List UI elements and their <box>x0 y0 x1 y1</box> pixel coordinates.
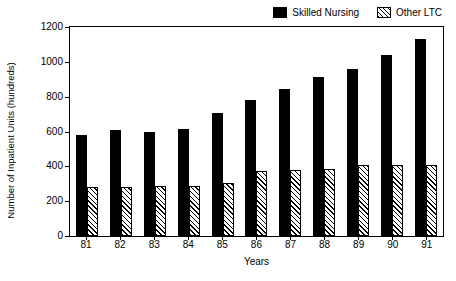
bar-chart: Skilled Nursing Other LTC Number of Inpa… <box>0 0 456 281</box>
bar-group <box>415 27 437 236</box>
bar-skilled-nursing-86 <box>245 100 256 236</box>
y-axis-tick-label: 200 <box>46 196 63 206</box>
chart-legend: Skilled Nursing Other LTC <box>0 4 456 20</box>
x-axis-title: Years <box>69 256 444 267</box>
bar-skilled-nursing-91 <box>415 39 426 236</box>
x-axis-tick-label: 89 <box>353 239 364 253</box>
y-axis-title-text: Number of Inpatient Units (hundreds) <box>5 62 16 218</box>
bar-skilled-nursing-89 <box>347 69 358 236</box>
legend-swatch-hatch-icon <box>377 7 391 18</box>
bar-group <box>144 27 166 236</box>
bar-group <box>245 27 267 236</box>
y-axis-tick-label: 800 <box>46 92 63 102</box>
bar-group <box>313 27 335 236</box>
bar-other-ltc-84 <box>189 186 200 237</box>
bar-other-ltc-88 <box>324 169 335 236</box>
bar-other-ltc-81 <box>87 187 98 236</box>
bar-group <box>178 27 200 236</box>
bar-group <box>110 27 132 236</box>
bar-group <box>347 27 369 236</box>
x-axis-tick-label: 83 <box>149 239 160 253</box>
x-axis-tick-label: 84 <box>183 239 194 253</box>
y-axis-title: Number of Inpatient Units (hundreds) <box>2 0 18 281</box>
bar-skilled-nursing-81 <box>76 135 87 236</box>
bar-group <box>76 27 98 236</box>
legend-swatch-solid-icon <box>273 7 287 18</box>
y-axis-tick-label: 0 <box>57 231 63 241</box>
legend-item-other-ltc: Other LTC <box>377 7 442 18</box>
bar-group <box>279 27 301 236</box>
y-axis-tick-label: 1200 <box>41 22 63 32</box>
legend-label-skilled-nursing: Skilled Nursing <box>292 7 359 18</box>
plot-area: 020040060080010001200 <box>69 26 444 237</box>
bar-group <box>381 27 403 236</box>
bar-other-ltc-91 <box>426 165 437 236</box>
x-axis-tick-label: 82 <box>115 239 126 253</box>
legend-label-other-ltc: Other LTC <box>396 7 442 18</box>
x-axis-tick-label: 86 <box>251 239 262 253</box>
bar-skilled-nursing-90 <box>381 55 392 236</box>
bar-other-ltc-83 <box>155 186 166 236</box>
bar-group <box>212 27 234 236</box>
x-axis-tick-label: 91 <box>421 239 432 253</box>
bar-skilled-nursing-82 <box>110 130 121 236</box>
legend-item-skilled-nursing: Skilled Nursing <box>273 7 359 18</box>
bar-skilled-nursing-85 <box>212 113 223 236</box>
bar-other-ltc-90 <box>392 165 403 236</box>
y-axis-tick-label: 1000 <box>41 57 63 67</box>
y-axis-tick-label: 600 <box>46 127 63 137</box>
bar-other-ltc-82 <box>121 187 132 236</box>
x-axis-tick-label: 90 <box>387 239 398 253</box>
bar-other-ltc-85 <box>223 183 234 236</box>
x-axis-tick-label: 87 <box>285 239 296 253</box>
x-axis-tick-labels: 8182838485868788899091 <box>69 239 444 253</box>
bar-other-ltc-89 <box>358 165 369 236</box>
bar-skilled-nursing-84 <box>178 129 189 236</box>
x-axis-tick-label: 81 <box>80 239 91 253</box>
bar-skilled-nursing-88 <box>313 77 324 236</box>
bar-series-container <box>70 27 443 236</box>
x-axis-tick-label: 85 <box>217 239 228 253</box>
x-axis-tick-label: 88 <box>319 239 330 253</box>
bar-other-ltc-87 <box>290 170 301 236</box>
bar-skilled-nursing-87 <box>279 89 290 236</box>
bar-skilled-nursing-83 <box>144 132 155 236</box>
bar-other-ltc-86 <box>256 171 267 236</box>
y-axis-tick-label: 400 <box>46 161 63 171</box>
